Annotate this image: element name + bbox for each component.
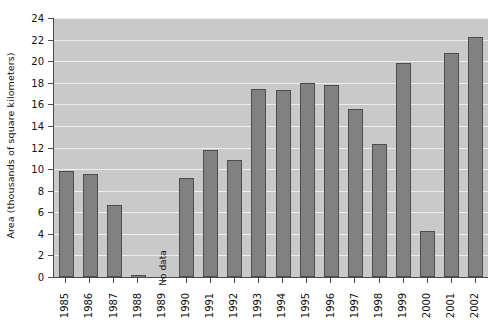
x-tick-label-text: 1988 <box>132 293 143 318</box>
bar-1998 <box>372 144 387 277</box>
bar-1992 <box>227 160 242 277</box>
bar-2001 <box>444 53 459 277</box>
x-tick-label-1987: 1987 <box>107 286 119 320</box>
plot-area: No data <box>53 18 488 278</box>
bar-1999 <box>396 63 411 277</box>
x-tick-mark <box>451 278 452 283</box>
x-tick-mark <box>330 278 331 283</box>
y-tick-label: 8 <box>38 185 44 196</box>
x-tick-label-text: 2000 <box>421 293 432 318</box>
x-tick-label-text: 1990 <box>180 293 191 318</box>
x-tick-mark <box>186 278 187 283</box>
bar-1986 <box>83 174 98 277</box>
no-data-annotation: No data <box>157 201 169 273</box>
x-tick-mark <box>475 278 476 283</box>
y-tick-label: 6 <box>38 207 44 218</box>
x-tick-mark <box>113 278 114 283</box>
x-axis-ticks: 1985198619871988198919901991199219931994… <box>53 278 487 320</box>
y-tick-label: 20 <box>31 56 44 67</box>
x-tick-label-text: 1999 <box>397 293 408 318</box>
bar-1991 <box>203 150 218 277</box>
x-tick-label-text: 2001 <box>445 293 456 318</box>
bar-1987 <box>107 205 122 277</box>
y-tick-label: 14 <box>31 120 44 131</box>
x-tick-label-text: 1991 <box>204 293 215 318</box>
x-tick-mark <box>427 278 428 283</box>
x-tick-label-text: 1992 <box>228 293 239 318</box>
x-tick-label-1989: 1989 <box>156 286 168 320</box>
y-tick-label: 12 <box>31 142 44 153</box>
y-axis-ticks: 024681012141618202224 <box>0 0 53 320</box>
bar-1993 <box>251 89 266 277</box>
x-tick-mark <box>137 278 138 283</box>
x-tick-mark <box>379 278 380 283</box>
y-tick-label: 10 <box>31 164 44 175</box>
y-tick-label: 24 <box>31 13 44 24</box>
x-tick-label-1991: 1991 <box>204 286 216 320</box>
x-tick-label-1990: 1990 <box>180 286 192 320</box>
x-tick-label-1988: 1988 <box>131 286 143 320</box>
x-tick-label-2001: 2001 <box>445 286 457 320</box>
x-tick-label-text: 1987 <box>108 293 119 318</box>
x-tick-mark <box>65 278 66 283</box>
y-tick-label: 18 <box>31 77 44 88</box>
x-tick-label-2002: 2002 <box>469 286 481 320</box>
bar-2002 <box>468 37 483 277</box>
y-tick-label: 16 <box>31 99 44 110</box>
x-tick-label-text: 1986 <box>84 293 95 318</box>
bar-1997 <box>348 109 363 277</box>
bar-1994 <box>276 90 291 277</box>
x-tick-mark <box>306 278 307 283</box>
x-tick-label-text: 1985 <box>60 293 71 318</box>
x-tick-label-2000: 2000 <box>421 286 433 320</box>
x-tick-label-1993: 1993 <box>252 286 264 320</box>
x-tick-label-1994: 1994 <box>276 286 288 320</box>
bar-1985 <box>59 171 74 277</box>
x-tick-label-text: 2002 <box>469 293 480 318</box>
y-tick-label: 0 <box>38 272 44 283</box>
bar-1988 <box>131 275 146 277</box>
x-tick-label-1999: 1999 <box>397 286 409 320</box>
x-tick-label-1998: 1998 <box>373 286 385 320</box>
y-tick-label: 2 <box>38 250 44 261</box>
x-tick-mark <box>234 278 235 283</box>
x-tick-label-1986: 1986 <box>83 286 95 320</box>
bar-2000 <box>420 231 435 277</box>
x-tick-label-1992: 1992 <box>228 286 240 320</box>
bar-1990 <box>179 178 194 277</box>
x-tick-mark <box>354 278 355 283</box>
y-tick-label: 22 <box>31 34 44 45</box>
x-tick-label-1996: 1996 <box>324 286 336 320</box>
x-tick-label-text: 1994 <box>277 293 288 318</box>
x-tick-label-1997: 1997 <box>348 286 360 320</box>
x-tick-label-text: 1996 <box>325 293 336 318</box>
x-tick-label-1995: 1995 <box>300 286 312 320</box>
x-tick-mark <box>89 278 90 283</box>
y-tick-label: 4 <box>38 228 44 239</box>
bar-1996 <box>324 85 339 277</box>
x-tick-mark <box>403 278 404 283</box>
x-tick-mark <box>258 278 259 283</box>
x-tick-mark <box>282 278 283 283</box>
x-tick-mark <box>162 278 163 283</box>
bar-chart-figure: Area (thousands of square kilometers) 02… <box>0 0 500 320</box>
bar-series: No data <box>54 18 488 277</box>
x-tick-label-1985: 1985 <box>59 286 71 320</box>
x-tick-label-text: 1989 <box>156 293 167 318</box>
x-tick-label-text: 1997 <box>349 293 360 318</box>
bar-1995 <box>300 83 315 277</box>
x-tick-mark <box>210 278 211 283</box>
x-tick-label-text: 1995 <box>301 293 312 318</box>
x-tick-label-text: 1998 <box>373 293 384 318</box>
x-tick-label-text: 1993 <box>252 293 263 318</box>
